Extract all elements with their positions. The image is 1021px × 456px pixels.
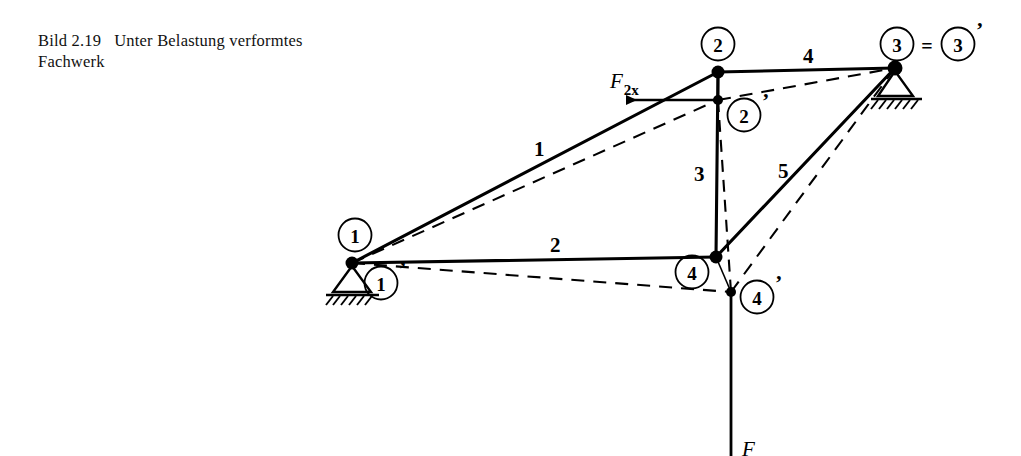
force-F2x-label: F2x <box>609 69 639 98</box>
truss-diagram: F2x F 1 2 3 4 5 1 1 ’ <box>0 0 1021 456</box>
member-label-4: 4 <box>803 44 814 68</box>
node-dot-2 <box>712 66 725 79</box>
node-dot-3 <box>888 61 903 76</box>
member-2 <box>352 257 716 263</box>
node-label-markers-group: 1 1 ’ 2 2 ’ 3 <box>339 17 984 314</box>
deformed-member-2 <box>352 263 731 292</box>
node-marker-4-prime-tick: ’ <box>775 270 782 295</box>
force-F2x-symbol: F <box>609 69 623 93</box>
node-marker-1-prime-label: 1 <box>376 274 386 295</box>
force-F-label: F <box>741 437 755 456</box>
node-marker-1: 1 <box>339 219 372 252</box>
node-marker-2-prime-label: 2 <box>739 106 749 127</box>
node-marker-2-label: 2 <box>713 35 723 56</box>
node-equals-sign: = <box>921 35 932 57</box>
force-F2x-subscript: 2x <box>624 82 640 98</box>
deformed-member-1 <box>352 100 718 263</box>
node-dot-4 <box>710 251 723 264</box>
node-marker-3: 3 <box>881 28 914 61</box>
node-marker-4-label: 4 <box>687 263 697 284</box>
node-marker-4: 4 <box>676 256 709 289</box>
member-label-3: 3 <box>694 162 705 186</box>
deformed-member-5 <box>731 68 895 292</box>
member-labels-group: 1 2 3 4 5 <box>534 44 814 257</box>
node-marker-1-label: 1 <box>350 226 360 247</box>
node-marker-4-prime-label: 4 <box>752 288 762 309</box>
node-marker-3-prime: 3 ’ <box>942 17 984 61</box>
node-marker-3-prime-label: 3 <box>953 35 963 56</box>
member-label-2: 2 <box>550 233 561 257</box>
member-label-1: 1 <box>534 137 545 161</box>
figure-root: Bild 2.19Unter Belastung verformtes Fach… <box>0 0 1021 456</box>
deformed-member-3 <box>718 100 731 292</box>
node-dot-1 <box>346 257 359 270</box>
node-marker-3-label: 3 <box>892 35 902 56</box>
node-marker-4-prime: 4 ’ <box>741 270 783 314</box>
node-marker-3-prime-tick: ’ <box>976 17 983 42</box>
member-label-5: 5 <box>778 159 789 183</box>
node-marker-2-prime-tick: ’ <box>762 88 769 113</box>
force-F2x: F2x <box>609 69 718 100</box>
force-F: F <box>731 292 755 456</box>
node-marker-2: 2 <box>702 28 735 61</box>
node-marker-1-prime-tick: ’ <box>399 256 406 281</box>
member-4 <box>718 68 895 72</box>
